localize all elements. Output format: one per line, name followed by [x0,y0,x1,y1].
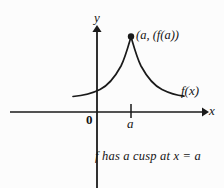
x-axis-label: x [209,104,215,117]
y-axis-arrowhead [92,25,101,32]
x-tick-label-a: a [127,117,134,130]
cusp-function-figure: y x 0 a f(x) (a, (f(a)) f has a cusp at … [0,0,224,188]
figure-caption: f has a cusp at x = a [95,150,201,163]
cusp-point-marker [128,33,134,39]
origin-label: 0 [86,113,93,126]
curve-label-fx: f(x) [181,84,199,97]
x-axis-arrowhead [202,108,209,117]
y-axis-label: y [94,11,100,24]
function-curve [73,37,184,97]
cusp-point-label: (a, (f(a)) [136,29,179,42]
